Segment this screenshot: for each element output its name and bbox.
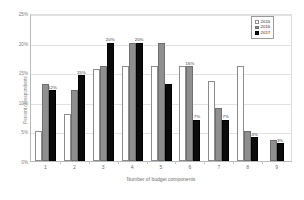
bar	[158, 43, 165, 161]
bar	[237, 66, 244, 161]
bar	[71, 90, 78, 161]
bar-group: 20%4	[118, 15, 147, 161]
x-axis-separator	[89, 161, 90, 164]
bar-value-label: 7%	[194, 115, 200, 119]
x-axis-label: Number of budget components	[30, 176, 292, 182]
legend-swatch-icon	[255, 26, 259, 30]
bar	[129, 43, 136, 161]
legend-swatch-icon	[255, 31, 259, 35]
chart-legend: 201520162017	[251, 16, 274, 39]
bar: 7%	[222, 120, 229, 161]
x-axis-tick-label: 2	[73, 165, 76, 170]
x-axis-separator	[204, 161, 205, 164]
x-axis-tick-label: 3	[102, 165, 105, 170]
bar: 16%	[186, 66, 193, 161]
bar	[93, 69, 100, 161]
bar	[42, 84, 49, 161]
x-axis-separator	[233, 161, 234, 164]
bar-value-label: 7%	[223, 115, 229, 119]
bar	[165, 84, 172, 161]
y-axis-tick-label: 25%	[2, 13, 28, 18]
bar	[35, 131, 42, 161]
bar-group: 20%3	[89, 15, 118, 161]
bar	[151, 66, 158, 161]
x-axis-separator	[118, 161, 119, 164]
bar-value-label: 12%	[48, 86, 57, 90]
bar: 20%	[107, 43, 114, 161]
bar: 20%	[136, 43, 143, 161]
x-axis-tick-label: 9	[275, 165, 278, 170]
bar-value-label: 20%	[135, 38, 144, 42]
bar-value-label: 20%	[106, 38, 115, 42]
x-axis-tick-label: 1	[44, 165, 47, 170]
x-axis-tick-label: 7	[217, 165, 220, 170]
bar-value-label: 4%	[251, 133, 257, 137]
x-axis-separator	[60, 161, 61, 164]
x-axis-tick-label: 5	[160, 165, 163, 170]
bar	[122, 66, 129, 161]
bar	[215, 108, 222, 161]
bar-chart: Percent of respondents 0%5%10%15%20%25% …	[0, 0, 304, 200]
x-axis-tick-label: 6	[189, 165, 192, 170]
legend-label: 2017	[261, 31, 271, 35]
bar-value-label: 3%	[277, 139, 283, 143]
x-axis-tick-label: 4	[131, 165, 134, 170]
y-axis-tick-label: 5%	[2, 131, 28, 136]
y-axis-tick-label: 10%	[2, 102, 28, 107]
bar-group: 7%7	[204, 15, 233, 161]
bar-value-label: 15%	[77, 71, 86, 75]
bar	[208, 81, 215, 161]
bar	[64, 114, 71, 161]
bar	[270, 140, 277, 161]
bar-value-label: 16%	[185, 62, 194, 66]
bar-group: 16%7%6	[175, 15, 204, 161]
bar: 7%	[193, 120, 200, 161]
y-axis-tick-label: 20%	[2, 42, 28, 47]
bar-group: 5	[147, 15, 176, 161]
bar: 15%	[78, 75, 85, 161]
x-axis-separator	[147, 161, 148, 164]
y-axis-tick-label: 0%	[2, 161, 28, 166]
legend-item[interactable]: 2017	[255, 31, 270, 35]
bar: 3%	[277, 143, 284, 161]
bar	[244, 131, 251, 161]
legend-swatch-icon	[255, 20, 259, 24]
x-axis-separator	[262, 161, 263, 164]
bar	[100, 66, 107, 161]
bar	[179, 66, 186, 161]
x-axis-tick-label: 8	[246, 165, 249, 170]
y-axis-tick-label: 15%	[2, 72, 28, 77]
bar-group: 15%2	[60, 15, 89, 161]
bar: 12%	[49, 90, 56, 161]
x-axis-separator	[175, 161, 176, 164]
bar-group: 12%1	[31, 15, 60, 161]
bar: 4%	[251, 137, 258, 161]
